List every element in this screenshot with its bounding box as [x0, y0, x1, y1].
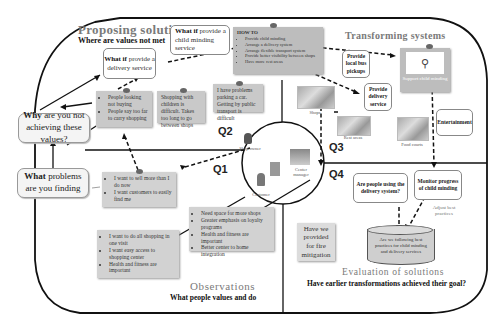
rest-areas-picture — [337, 116, 371, 136]
note-sell-more: I want to sell more than I do now I want… — [102, 172, 176, 207]
pin-icon — [236, 81, 243, 86]
cylinder-text: Are we following best practices for chil… — [368, 237, 434, 254]
shops-picture — [297, 86, 335, 109]
pin-icon — [136, 169, 143, 174]
note-item: I want customers to easily find me — [114, 189, 172, 203]
quadrant-q2-label: Q2 — [218, 125, 233, 137]
adjust-practices-label: Adjust best practices — [425, 205, 463, 217]
quadrant-q1-label: Q1 — [213, 163, 228, 175]
what-question-box: What problems are you finding — [17, 168, 89, 198]
what-bold: What — [24, 171, 46, 181]
note-item: Health and fitness are important — [201, 231, 270, 245]
note-shopping-children: Shopping with children is difficult. Tak… — [157, 91, 205, 123]
observations-title: Observations — [190, 280, 255, 292]
customer-icon — [257, 173, 265, 186]
evaluation-title: Evaluation of solutions — [342, 267, 444, 277]
shop-owner-label: Shop owner — [238, 146, 262, 151]
people-network-icon: ⚲ — [406, 52, 444, 74]
shopping-bags-icon — [270, 162, 280, 176]
what-if-delivery-box: What if provide a delivery service — [103, 48, 156, 79]
note-item: I want to do all shopping in one visit — [109, 233, 175, 247]
transforming-systems-title: Transforming systems — [345, 30, 446, 41]
support-child-card: ⚲ Support child minding — [400, 48, 450, 92]
note-item: Better center to home integration — [201, 244, 270, 258]
note-fire-mitigation: Have we provided for fire mitigation — [297, 223, 335, 261]
monitor-child-box: Monitor progress of child minding — [414, 170, 462, 200]
note-item: People looking not buying — [108, 94, 148, 108]
why-bold: Why — [23, 110, 42, 120]
pin-icon — [426, 44, 433, 49]
note-item: Health and fitness are important — [109, 261, 175, 275]
note-item: I want easy access to shopping center — [109, 247, 175, 261]
quadrant-q3-label: Q3 — [329, 141, 344, 153]
note-item: Need space for more shops — [201, 210, 270, 217]
note-parking: I have problems parking a car. Getting b… — [213, 84, 263, 112]
note-do-all-shopping: I want to do all shopping in one visit I… — [97, 230, 179, 278]
note-need-space: Need space for more shops Greater emphas… — [189, 207, 274, 251]
center-manager-icon — [290, 149, 310, 165]
what-if-bold: What if — [175, 27, 198, 35]
quadrant-q4-label: Q4 — [329, 168, 344, 180]
provide-bus-box: Provide local bus pickups — [342, 50, 370, 78]
pin-icon — [180, 88, 187, 93]
how-to-item: Provide better visibility between shops — [245, 53, 319, 59]
using-delivery-box: Are people using the delivery system? — [353, 173, 408, 203]
observations-subtitle: What people values and do — [170, 293, 256, 302]
shop-owner-icon — [244, 133, 252, 144]
provide-delivery-box: Provide delivery service — [364, 83, 392, 111]
what-if-child-box: What if provide a child minding service — [170, 25, 230, 55]
how-to-note: HOW TO Provide child minding Arrange a d… — [233, 27, 323, 74]
note-item: People say too far to carry shopping — [108, 108, 148, 122]
food-courts-picture — [397, 117, 429, 141]
pin-icon — [123, 88, 130, 93]
proposing-solutions-subtitle: Where are values not met — [78, 36, 165, 45]
note-item: I want to sell more than I do now — [114, 175, 172, 189]
pin-icon — [270, 23, 277, 28]
shops-caption: Shops — [297, 110, 333, 115]
center-manager-label: Center manager — [290, 167, 312, 178]
rest-areas-caption: Rest areas — [337, 135, 369, 140]
note-people-looking: People looking not buying People say too… — [96, 91, 152, 127]
support-child-label: Support child minding — [400, 76, 450, 82]
how-to-item: Have more rest areas — [245, 59, 319, 65]
cylinder-top — [367, 225, 433, 235]
customer-label: Customer — [250, 192, 272, 197]
note-item: Greater emphasis on loyalty programs — [201, 217, 270, 231]
why-question-box: Why are you not achieving these values? — [18, 113, 90, 143]
food-courts-caption: Food courts — [397, 142, 427, 147]
what-if-bold: What if — [104, 55, 127, 63]
entertainment-box: Entertainment — [436, 109, 473, 136]
evaluation-subtitle: Have earlier transformations achieved th… — [294, 279, 479, 290]
